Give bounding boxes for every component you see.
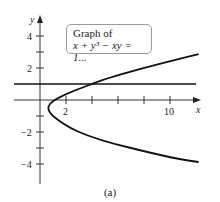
y-tick-label-4: 4 — [27, 31, 32, 42]
parabola-curve — [48, 54, 198, 162]
x-tick-label-10: 10 — [164, 106, 174, 117]
x-tick-label-2: 2 — [63, 106, 68, 117]
legend-box: Graph of x + y³ − xy = 1... — [66, 24, 152, 54]
x-axis-label: x — [195, 104, 201, 115]
legend-line-1: Graph of — [73, 27, 145, 39]
y-tick-label-2: 2 — [27, 63, 32, 74]
figure-caption: (a) — [0, 186, 220, 198]
y-tick-label-neg4: −4 — [21, 159, 32, 170]
legend-equation: x + y³ − xy = 1... — [73, 39, 145, 63]
x-axis-arrow-icon — [193, 97, 201, 103]
y-axis-arrow-icon — [37, 15, 43, 23]
y-tick-label-neg2: −2 — [21, 127, 32, 138]
y-axis-label: y — [29, 14, 35, 25]
